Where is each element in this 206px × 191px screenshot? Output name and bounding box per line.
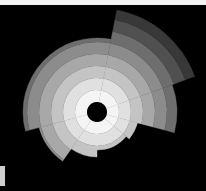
- polar-area-chart: [0, 0, 206, 191]
- center-hole: [87, 102, 107, 122]
- sector-ring: [129, 96, 143, 124]
